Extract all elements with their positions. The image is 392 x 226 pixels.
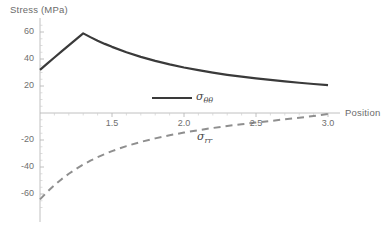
y-tick-label: -40 xyxy=(10,161,34,171)
legend-sigma-glyph-rr: σ xyxy=(197,130,205,143)
y-tick-label: -60 xyxy=(10,188,34,198)
x-tick-label: 2.0 xyxy=(171,118,197,128)
y-tick-label: 20 xyxy=(10,80,34,90)
series-line-sigma-theta-theta xyxy=(40,33,328,85)
legend-subscript-rr: rr xyxy=(205,136,213,145)
stress-position-chart xyxy=(0,0,392,226)
legend-label-sigma-theta-theta: σθθ xyxy=(196,90,213,105)
x-tick-label: 3.0 xyxy=(315,118,341,128)
y-tick-label: -20 xyxy=(10,134,34,144)
y-tick-label: 60 xyxy=(10,26,34,36)
y-tick-label: 40 xyxy=(10,53,34,63)
legend-sigma-glyph: σ xyxy=(196,90,204,103)
legend-label-sigma-rr: σrr xyxy=(197,130,212,145)
legend-swatch-sigma-theta-theta xyxy=(152,97,192,99)
x-tick-label: 2.5 xyxy=(243,118,269,128)
legend-subscript-theta-theta: θθ xyxy=(204,96,214,105)
tick-marks xyxy=(40,25,328,207)
x-tick-label: 1.5 xyxy=(99,118,125,128)
